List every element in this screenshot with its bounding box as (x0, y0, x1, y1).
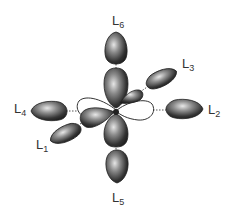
orbital-diagram: L6 L3 L2 L4 L1 L5 (0, 0, 237, 214)
metal-center (113, 109, 119, 115)
label-L6: L6 (112, 13, 124, 30)
label-L2: L2 (208, 102, 220, 119)
ligand-lobe-L2 (166, 99, 203, 118)
ligand-lobe-L6 (105, 32, 127, 64)
label-L3: L3 (182, 56, 194, 73)
ligand-lobe-L1 (47, 120, 84, 148)
label-L1: L1 (36, 137, 48, 154)
label-L4: L4 (14, 101, 26, 118)
ligand-lobe-L3 (143, 64, 180, 92)
ligand-lobe-L5 (106, 150, 128, 183)
label-L5: L5 (112, 190, 124, 207)
ligand-lobe-L4 (31, 101, 67, 120)
